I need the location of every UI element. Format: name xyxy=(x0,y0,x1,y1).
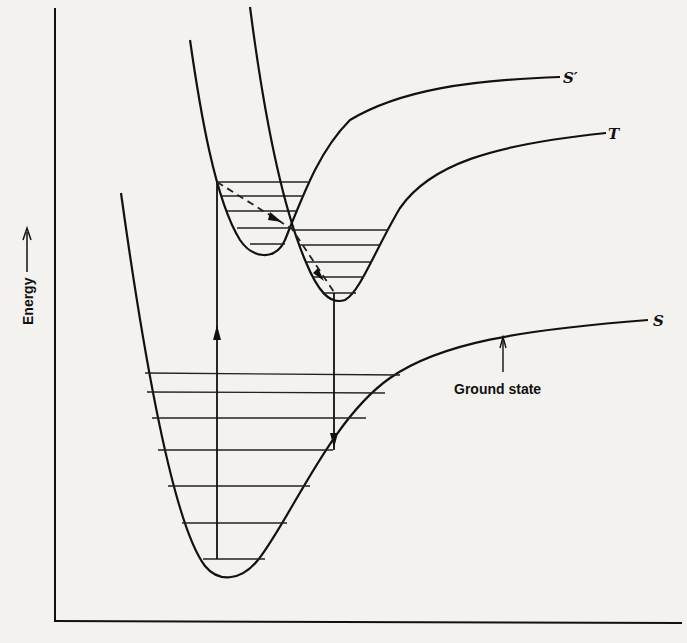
excited-singlet-label: S′ xyxy=(563,69,578,87)
energy-axis-label: Energy xyxy=(20,228,36,325)
ground-vibrational-levels xyxy=(145,373,400,559)
intersystem-crossing-arrow xyxy=(217,182,334,292)
triplet-curve xyxy=(250,7,606,301)
emission-arrow xyxy=(330,293,338,450)
triplet-label: T xyxy=(608,125,621,143)
jablonski-potential-energy-diagram: Energy xyxy=(0,0,687,643)
svg-text:Ground state: Ground state xyxy=(454,381,541,397)
x-axis xyxy=(54,621,682,623)
absorption-arrow xyxy=(213,182,221,559)
ground-state-curve xyxy=(121,193,648,577)
svg-text:Energy: Energy xyxy=(20,277,36,325)
ground-curve-label: S xyxy=(653,312,664,330)
diagram-canvas: Energy xyxy=(0,0,687,643)
arrowhead-up-icon xyxy=(213,325,221,340)
excited-singlet-curve xyxy=(190,40,560,255)
arrowhead-icon xyxy=(268,212,282,222)
